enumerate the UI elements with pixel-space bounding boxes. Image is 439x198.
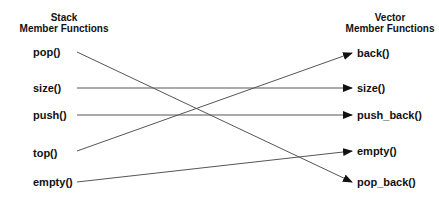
arrow-pop-to-pop-back bbox=[77, 52, 352, 182]
mapping-arrows bbox=[0, 0, 439, 198]
arrow-empty-to-empty bbox=[77, 151, 352, 182]
arrow-top-to-back bbox=[77, 53, 352, 151]
